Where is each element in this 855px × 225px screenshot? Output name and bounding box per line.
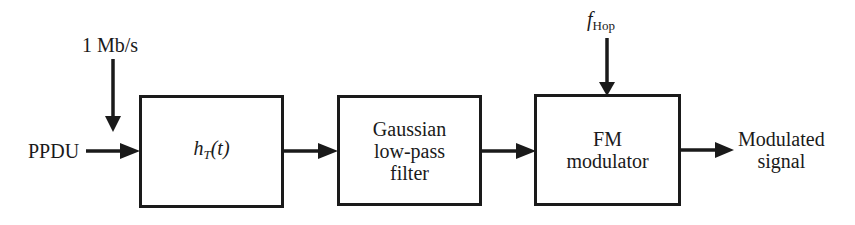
ht-main: h xyxy=(193,137,203,159)
ht-label: hT(t) xyxy=(193,137,229,166)
block-fm-modulator: FM modulator xyxy=(534,94,681,206)
hop-sub: Hop xyxy=(593,18,615,33)
bit-rate-label: 1 Mb/s xyxy=(82,34,138,56)
ht-sub: T xyxy=(203,147,210,162)
output-line-2: signal xyxy=(738,150,825,172)
block-ht-filter: hT(t) xyxy=(139,95,284,208)
fm-line-2: modulator xyxy=(566,150,648,172)
ht-arg: (t) xyxy=(211,137,230,159)
gaussian-line-3: filter xyxy=(373,162,446,184)
block-gaussian-lpf: Gaussian low-pass filter xyxy=(337,95,482,206)
output-line-1: Modulated xyxy=(738,128,825,150)
output-label: Modulated signal xyxy=(738,128,825,172)
gaussian-line-1: Gaussian xyxy=(373,118,446,140)
hop-frequency-label: fHop xyxy=(587,8,615,37)
gaussian-line-2: low-pass xyxy=(373,140,446,162)
input-label-ppdu: PPDU xyxy=(28,140,79,162)
fm-line-1: FM xyxy=(566,128,648,150)
